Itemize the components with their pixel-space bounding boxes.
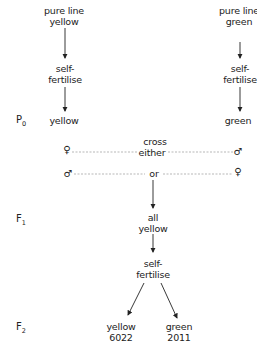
male-symbol-icon: ♂	[234, 147, 243, 157]
male-symbol-icon: ♂	[64, 169, 73, 179]
female-symbol-icon: ♀	[234, 167, 241, 177]
right-source-label: pure linegreen	[219, 5, 257, 27]
f2-yellow-result: yellow6022	[106, 321, 135, 343]
or-label: or	[149, 168, 158, 179]
left-source-label: pure lineyellow	[44, 5, 84, 27]
f1-result-label: allyellow	[138, 212, 167, 234]
left-parent-label: yellow	[49, 115, 78, 126]
either-label: either	[139, 147, 166, 158]
right-self-fertilise-label: self-fertilise	[223, 63, 257, 85]
female-symbol-icon: ♀	[63, 145, 70, 155]
generation-label-f2: F2	[16, 321, 26, 337]
f2-green-result: green2011	[166, 321, 192, 343]
cross-label: cross	[143, 136, 167, 147]
left-self-fertilise-label: self-fertilise	[48, 63, 82, 85]
arrows-layer	[0, 0, 257, 348]
generation-label-p0: P0	[16, 114, 26, 130]
right-parent-label: green	[225, 115, 251, 126]
generation-label-f1: F1	[16, 213, 26, 229]
f1-self-fertilise-label: self-fertilise	[136, 258, 170, 280]
